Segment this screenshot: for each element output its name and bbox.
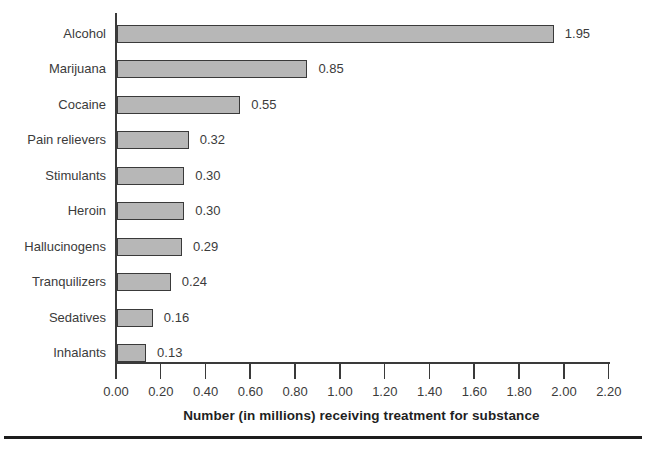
x-tick-label: 1.40 bbox=[408, 385, 452, 399]
bar-chart: Alcohol1.95Marijuana0.85Cocaine0.55Pain … bbox=[0, 0, 646, 436]
x-tick-label: 2.20 bbox=[587, 385, 631, 399]
x-tick bbox=[205, 364, 207, 379]
x-axis-line bbox=[115, 362, 610, 364]
category-label: Stimulants bbox=[0, 168, 106, 184]
bar bbox=[117, 309, 153, 327]
x-tick bbox=[608, 364, 610, 379]
x-tick-label: 1.60 bbox=[452, 385, 496, 399]
bar bbox=[117, 273, 171, 291]
x-tick-label: 1.20 bbox=[363, 385, 407, 399]
bar bbox=[117, 238, 182, 256]
bar-value-label: 0.16 bbox=[164, 310, 189, 326]
category-label: Cocaine bbox=[0, 97, 106, 113]
y-axis-line bbox=[115, 13, 117, 364]
x-tick-label: 2.00 bbox=[542, 385, 586, 399]
bar bbox=[117, 25, 554, 43]
bar bbox=[117, 167, 184, 185]
bar bbox=[117, 96, 240, 114]
bar-value-label: 0.55 bbox=[251, 97, 276, 113]
x-tick bbox=[429, 364, 431, 379]
x-axis-title: Number (in millions) receiving treatment… bbox=[115, 408, 608, 423]
bar-value-label: 0.32 bbox=[200, 132, 225, 148]
category-label: Sedatives bbox=[0, 310, 106, 326]
x-tick-label: 0.40 bbox=[184, 385, 228, 399]
bar-value-label: 0.29 bbox=[193, 239, 218, 255]
x-tick bbox=[384, 364, 386, 379]
bar-value-label: 0.24 bbox=[182, 274, 207, 290]
bar-value-label: 0.13 bbox=[157, 345, 182, 361]
x-tick bbox=[563, 364, 565, 379]
x-tick-label: 1.00 bbox=[318, 385, 362, 399]
bar bbox=[117, 344, 146, 362]
bar bbox=[117, 131, 189, 149]
x-tick-label: 0.00 bbox=[94, 385, 138, 399]
bar bbox=[117, 60, 307, 78]
category-label: Pain relievers bbox=[0, 132, 106, 148]
bar-value-label: 0.85 bbox=[318, 61, 343, 77]
x-tick-label: 1.80 bbox=[497, 385, 541, 399]
category-label: Alcohol bbox=[0, 26, 106, 42]
bar-value-label: 1.95 bbox=[565, 26, 590, 42]
x-tick bbox=[473, 364, 475, 379]
bar-value-label: 0.30 bbox=[195, 203, 220, 219]
category-label: Tranquilizers bbox=[0, 274, 106, 290]
x-tick-label: 0.60 bbox=[228, 385, 272, 399]
bar bbox=[117, 202, 184, 220]
x-tick bbox=[115, 364, 117, 379]
category-label: Hallucinogens bbox=[0, 239, 106, 255]
bar-value-label: 0.30 bbox=[195, 168, 220, 184]
x-tick bbox=[160, 364, 162, 379]
category-label: Marijuana bbox=[0, 61, 106, 77]
bottom-rule bbox=[4, 436, 642, 439]
figure: Alcohol1.95Marijuana0.85Cocaine0.55Pain … bbox=[0, 0, 646, 450]
x-tick bbox=[518, 364, 520, 379]
category-label: Heroin bbox=[0, 203, 106, 219]
x-tick-label: 0.80 bbox=[273, 385, 317, 399]
x-tick-label: 0.20 bbox=[139, 385, 183, 399]
x-tick bbox=[294, 364, 296, 379]
x-tick bbox=[249, 364, 251, 379]
category-label: Inhalants bbox=[0, 345, 106, 361]
x-tick bbox=[339, 364, 341, 379]
